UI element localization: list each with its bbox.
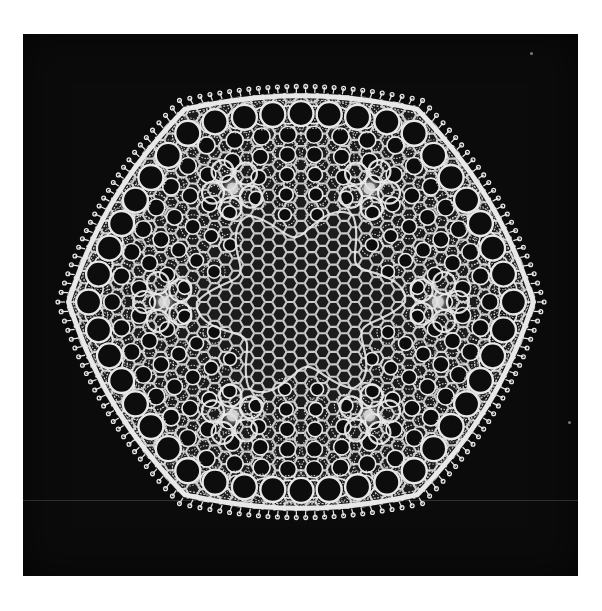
lace-pattern [56, 65, 546, 538]
lace-doily-image [0, 0, 602, 611]
dust-speck [568, 421, 571, 424]
dust-speck [530, 52, 533, 55]
